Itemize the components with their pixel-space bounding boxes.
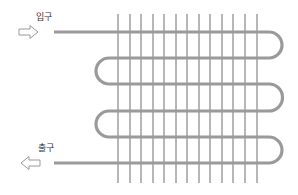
fins — [118, 14, 257, 183]
inlet-label: 입구 — [36, 13, 52, 22]
right-arrow-icon — [19, 26, 38, 39]
coil-diagram — [0, 0, 298, 195]
serpentine-pipe — [54, 32, 283, 163]
outlet-label: 출구 — [38, 144, 54, 153]
left-arrow-icon — [21, 157, 40, 170]
